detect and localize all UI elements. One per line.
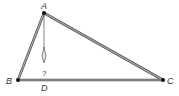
vertex-a xyxy=(42,11,46,15)
triangle-diagram: A B C D ? xyxy=(0,0,179,96)
label-a: A xyxy=(40,1,47,11)
edge-ac-inner xyxy=(44,13,163,80)
label-unknown: ? xyxy=(42,69,47,78)
triangle-edges xyxy=(18,13,163,80)
vertices xyxy=(16,11,165,82)
altitude-ad xyxy=(42,13,46,63)
label-d: D xyxy=(41,83,48,93)
label-b: B xyxy=(6,76,12,86)
vertex-b xyxy=(16,78,20,82)
edge-ab-inner xyxy=(18,13,44,80)
label-c: C xyxy=(167,76,174,86)
vertex-c xyxy=(161,78,165,82)
down-arrow-icon xyxy=(42,47,46,63)
